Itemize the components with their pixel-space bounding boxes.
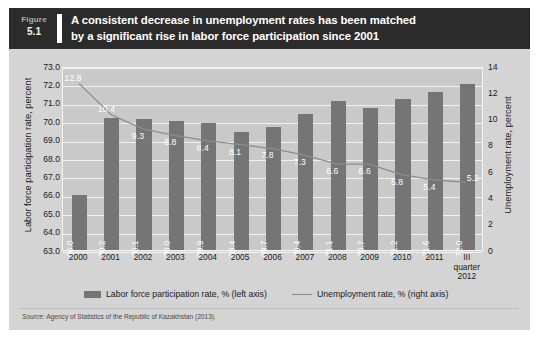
- source-prefix: Source:: [22, 313, 45, 320]
- chart-body: Labor force participation rate, percent …: [9, 49, 530, 330]
- title-line-1: A consistent decrease in unemployment ra…: [71, 13, 522, 29]
- y-tick-left: 66.0: [43, 191, 60, 200]
- line-value-label: 8.8: [160, 137, 180, 147]
- x-axis-labels: 2000200120022003200420052006200720082009…: [62, 253, 483, 287]
- x-tick-label: 2005: [224, 253, 256, 263]
- x-tick-label: 2008: [321, 253, 353, 263]
- title-line-2: by a significant rise in labor force par…: [71, 29, 522, 45]
- y-tick-left: 67.0: [43, 173, 60, 182]
- plot-area: 66.070.270.170.069.969.469.770.471.170.7…: [62, 67, 483, 251]
- y-tick-right: 4: [488, 194, 493, 203]
- x-tick-label: 2000: [62, 253, 94, 263]
- legend-label-line: Unemployment rate, % (right axis): [317, 289, 448, 299]
- figure-header: Figure 5.1 A consistent decrease in unem…: [9, 8, 530, 49]
- x-tick-label: 2004: [192, 253, 224, 263]
- source-note: Source: Agency of Statistics of the Repu…: [22, 313, 216, 320]
- y-tick-right: 10: [488, 115, 498, 124]
- line-value-label: 5.8: [387, 177, 407, 187]
- source-text: Agency of Statistics of the Republic of …: [46, 313, 216, 320]
- x-tick-label: 2002: [127, 253, 159, 263]
- line-value-label: 8.4: [193, 143, 213, 153]
- x-tick-label: IIIquarter2012: [451, 253, 483, 282]
- y-tick-right: 0: [488, 247, 493, 256]
- x-tick-label: 2009: [353, 253, 385, 263]
- y-tick-left: 71.0: [43, 99, 60, 108]
- line-value-label: 9.3: [128, 131, 148, 141]
- header-divider-rule: [57, 14, 62, 43]
- y-tick-right: 12: [488, 89, 498, 98]
- line-value-label: 6.6: [322, 166, 342, 176]
- y-tick-left: 72.0: [43, 81, 60, 90]
- line-swatch-icon: [292, 290, 312, 299]
- source-divider: [20, 308, 519, 309]
- line-value-label: 6.6: [355, 166, 375, 176]
- line-value-label: 8.1: [225, 147, 245, 157]
- y-tick-right: 6: [488, 168, 493, 177]
- legend-item-bars: Labor force participation rate, % (left …: [84, 289, 267, 299]
- line-value-label: 5.4: [419, 182, 439, 192]
- line-value-label: 7.3: [290, 157, 310, 167]
- y-tick-left: 70.0: [43, 118, 60, 127]
- y-tick-left: 64.0: [43, 228, 60, 237]
- y-tick-left: 65.0: [43, 210, 60, 219]
- figure-word-label: Figure: [17, 14, 51, 25]
- x-tick-label: 2011: [418, 253, 450, 263]
- line-value-label: 5.2: [463, 173, 483, 183]
- x-tick-label: 2003: [159, 253, 191, 263]
- legend-item-line: Unemployment rate, % (right axis): [292, 289, 448, 299]
- y-tick-left: 68.0: [43, 155, 60, 164]
- x-tick-label: 2007: [289, 253, 321, 263]
- figure-number: 5.1: [17, 26, 51, 37]
- line-value-label: 10.4: [97, 104, 117, 114]
- x-tick-label: 2001: [94, 253, 126, 263]
- y-tick-right: 14: [488, 63, 498, 72]
- x-tick-label: 2010: [386, 253, 418, 263]
- y-tick-left: 69.0: [43, 136, 60, 145]
- y-tick-left: 63.0: [43, 247, 60, 256]
- y-axis-right-ticks: 02468101214: [488, 49, 508, 251]
- y-tick-right: 8: [488, 141, 493, 150]
- figure-title: A consistent decrease in unemployment ra…: [71, 13, 522, 44]
- legend-label-bars: Labor force participation rate, % (left …: [106, 289, 267, 299]
- bar-swatch-icon: [84, 291, 101, 298]
- chart-legend: Labor force participation rate, % (left …: [9, 289, 530, 305]
- figure-container: Figure 5.1 A consistent decrease in unem…: [9, 8, 530, 330]
- x-tick-label: 2006: [256, 253, 288, 263]
- y-tick-left: 73.0: [43, 63, 60, 72]
- line-value-label: 7.8: [258, 150, 278, 160]
- line-value-label: 12.8: [63, 73, 83, 83]
- y-axis-left-ticks: 63.064.065.066.067.068.069.070.071.072.0…: [23, 49, 60, 251]
- y-tick-right: 2: [488, 220, 493, 229]
